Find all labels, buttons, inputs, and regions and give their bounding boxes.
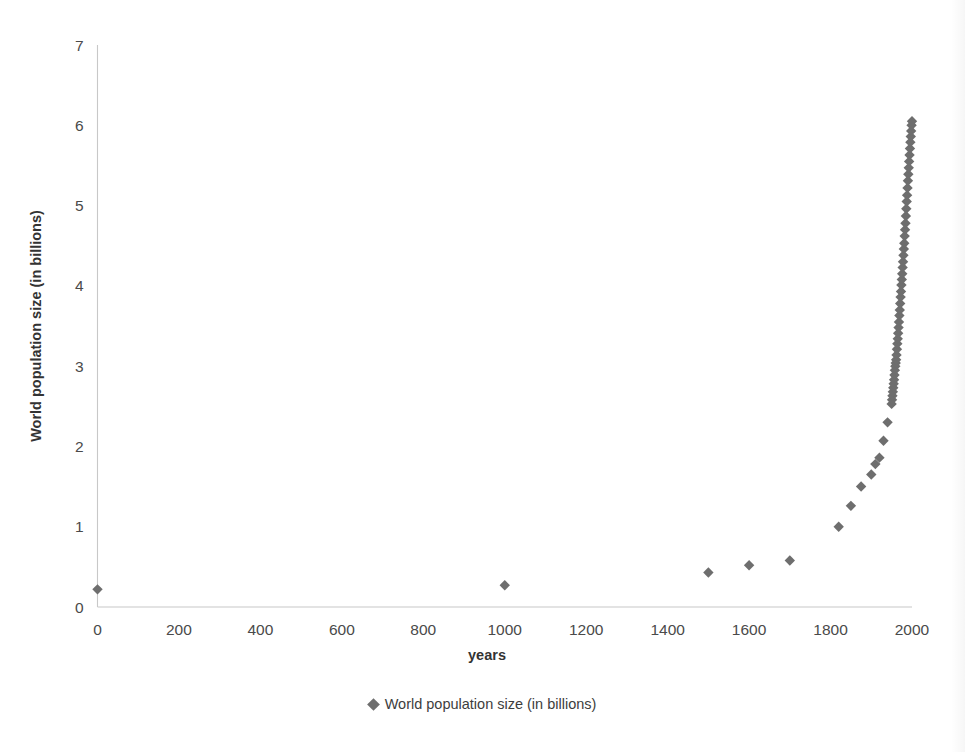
x-tick-label: 2000 [895,621,930,638]
x-tick-label: 1600 [732,621,767,638]
x-axis-title: years [468,647,506,663]
y-tick-label: 1 [75,518,84,535]
chart-background [0,0,965,752]
x-tick-label: 800 [410,621,436,638]
x-tick-label: 1400 [650,621,685,638]
y-tick-label: 7 [75,37,84,54]
population-scatter-chart: 01234567 0200400600800100012001400160018… [0,0,965,752]
x-tick-label: 200 [166,621,192,638]
y-tick-label: 3 [75,358,84,375]
chart-container: 01234567 0200400600800100012001400160018… [0,0,965,752]
diamond-marker-icon [367,698,380,711]
x-tick-label: 1000 [488,621,523,638]
chart-legend: World population size (in billions) [0,694,965,713]
y-tick-label: 2 [75,438,84,455]
x-tick-label: 1800 [813,621,848,638]
y-tick-label: 0 [75,599,84,616]
y-tick-label: 6 [75,117,84,134]
x-tick-label: 1200 [569,621,604,638]
legend-label: World population size (in billions) [385,696,597,712]
y-tick-label: 4 [75,277,84,294]
x-tick-label: 0 [93,621,102,638]
y-axis-title: World population size (in billions) [28,210,44,442]
x-tick-label: 400 [247,621,273,638]
y-tick-label: 5 [75,197,84,214]
x-tick-label: 600 [329,621,355,638]
